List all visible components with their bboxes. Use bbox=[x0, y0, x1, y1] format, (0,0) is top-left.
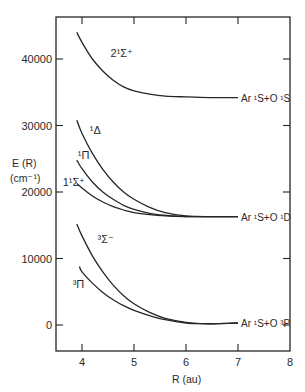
potential-energy-chart: 45678 010000200003000040000 2¹Σ⁺¹Δ¹Π1¹Σ⁺… bbox=[0, 0, 305, 392]
state-label: 1¹Σ⁺ bbox=[63, 176, 86, 188]
state-label: ¹Π bbox=[78, 149, 90, 161]
y-tick-label: 20000 bbox=[21, 186, 52, 198]
y-axis-label: E (R) bbox=[12, 157, 37, 169]
state-label: ¹Δ bbox=[90, 124, 102, 136]
y-axis-units: (cm⁻¹) bbox=[10, 172, 41, 184]
x-tick-label: 8 bbox=[287, 356, 293, 368]
asymptote-label: Ar ¹S+O ³P bbox=[241, 318, 291, 329]
state-label: ³Σ⁻ bbox=[98, 233, 114, 245]
x-tick-label: 6 bbox=[183, 356, 189, 368]
x-axis-label: R (au) bbox=[172, 373, 201, 385]
curves bbox=[77, 32, 238, 323]
chart-svg: 45678 010000200003000040000 2¹Σ⁺¹Δ¹Π1¹Σ⁺… bbox=[0, 0, 305, 392]
curve-¹Δ bbox=[77, 120, 238, 216]
y-tick-label: 30000 bbox=[21, 120, 52, 132]
plot-frame bbox=[56, 17, 290, 351]
x-axis-ticks: 45678 bbox=[79, 17, 293, 368]
curve-³Π bbox=[79, 267, 238, 324]
curve-1¹Σ⁺ bbox=[77, 183, 238, 216]
asymptote-label: Ar ¹S+O ¹S bbox=[241, 93, 291, 104]
curve-¹Π bbox=[77, 160, 238, 217]
x-tick-label: 4 bbox=[79, 356, 85, 368]
x-tick-label: 5 bbox=[131, 356, 137, 368]
state-label: ³Π bbox=[73, 278, 85, 290]
asymptote-label: Ar ¹S+O ¹D bbox=[241, 212, 291, 223]
curve-2¹Σ⁺ bbox=[77, 32, 238, 97]
state-label: 2¹Σ⁺ bbox=[111, 47, 134, 59]
y-tick-label: 40000 bbox=[21, 53, 52, 65]
x-tick-label: 7 bbox=[235, 356, 241, 368]
y-tick-label: 10000 bbox=[21, 253, 52, 265]
y-tick-label: 0 bbox=[46, 319, 52, 331]
plot-border bbox=[56, 17, 290, 351]
